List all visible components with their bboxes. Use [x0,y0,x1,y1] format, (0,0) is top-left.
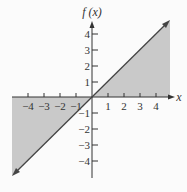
chart: −4 −3 −2 −1 1 2 3 4 4 3 2 1 −1 −2 −3 −4 … [0,0,187,192]
svg-text:3: 3 [85,44,91,56]
svg-text:−4: −4 [22,100,34,112]
svg-text:2: 2 [85,60,91,72]
svg-text:1: 1 [105,100,111,112]
svg-text:3: 3 [137,100,143,112]
y-axis-title: f (x) [82,5,102,19]
x-tick-labels: −4 −3 −2 −1 1 2 3 4 [22,100,159,112]
x-axis-title: x [175,90,182,104]
svg-text:−3: −3 [78,139,90,151]
y-axis-arrow-icon [90,21,95,28]
x-axis-arrow-icon [168,95,175,100]
svg-text:2: 2 [121,100,127,112]
svg-text:−4: −4 [78,155,90,167]
svg-text:1: 1 [85,76,91,88]
svg-text:−2: −2 [54,100,66,112]
chart-svg: −4 −3 −2 −1 1 2 3 4 4 3 2 1 −1 −2 −3 −4 … [0,0,187,192]
svg-text:−2: −2 [78,123,90,135]
svg-text:4: 4 [153,100,159,112]
svg-text:−3: −3 [38,100,50,112]
svg-text:4: 4 [85,28,91,40]
